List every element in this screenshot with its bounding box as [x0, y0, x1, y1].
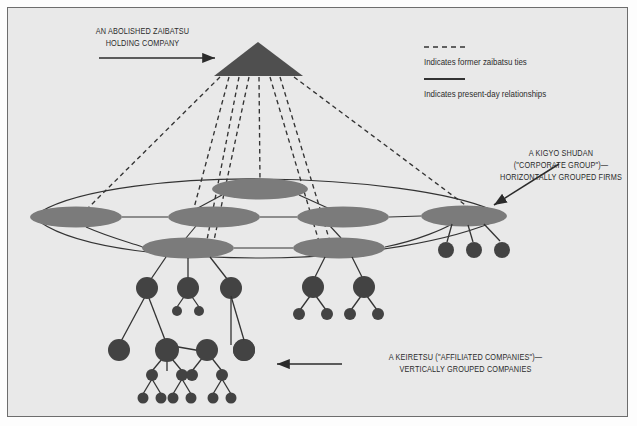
keiretsu-annotation-line2: VERTICALLY GROUPED COMPANIES [362, 364, 569, 376]
legend-item-dashed-label: Indicates former zaibatsu ties [424, 57, 527, 67]
holding-company-triangle [214, 42, 303, 76]
ellipse-bottom-2 [293, 238, 385, 259]
kigyo-annotation-line2: ("CORPORATE GROUP")— [495, 160, 627, 172]
kigyo-annotation-line3: HORIZONTALLY GROUPED FIRMS [495, 172, 627, 184]
diagram-page: AN ABOLISHED ZAIBATSU HOLDING COMPANY A … [0, 0, 637, 426]
legend-item-solid-label: Indicates present-day relationships [424, 89, 546, 99]
kigyo-annotation-line1: A KIGYO SHUDAN [495, 148, 627, 160]
ellipse-top [212, 179, 308, 200]
ellipse-mid-1 [30, 207, 122, 228]
keiretsu-tree-left-links [119, 257, 231, 394]
keiretsu-nodes-right [293, 276, 384, 320]
kigyo-shudan-ellipses [30, 179, 507, 259]
ellipse-mid-3 [297, 207, 389, 228]
keiretsu-nodes-left [108, 277, 255, 404]
keiretsu-nodes-right-group [438, 242, 510, 258]
zaibatsu-annotation-line1: AN ABOLISHED ZAIBATSU [74, 26, 210, 38]
keiretsu-annotation-line1: A KEIRETSU ("AFFILIATED COMPANIES")— [362, 352, 569, 364]
ellipse-mid-2 [168, 207, 260, 228]
keiretsu-extra-links-left [231, 296, 244, 340]
ellipse-mid-4 [421, 206, 507, 227]
zaibatsu-annotation-line2: HOLDING COMPANY [74, 38, 210, 50]
former-zaibatsu-tie-lines [86, 77, 468, 245]
keiretsu-branches-right-group [447, 224, 500, 242]
ellipse-bottom-1 [142, 238, 234, 259]
